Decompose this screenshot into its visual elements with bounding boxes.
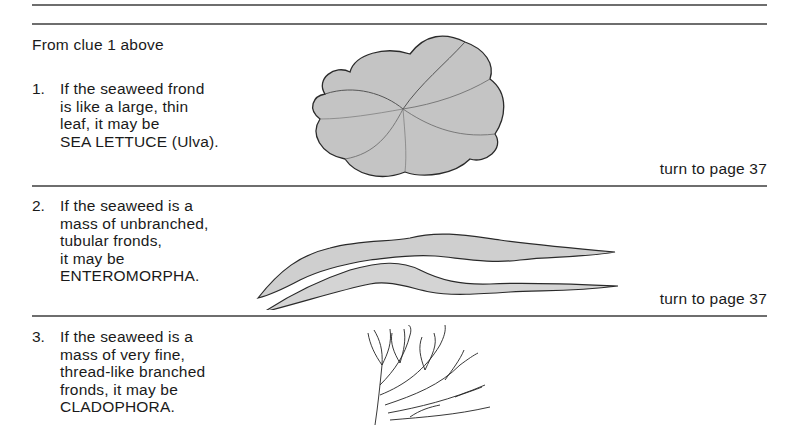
sea-lettuce-illustration xyxy=(295,24,515,184)
species-name: CLADOPHORA. xyxy=(60,398,205,416)
entry-number: 1. xyxy=(32,80,45,98)
species-name: SEA LETTUCE (Ulva). xyxy=(60,133,219,151)
top-rule xyxy=(32,4,767,6)
entry-text: If the seaweed is a mass of very fine, t… xyxy=(60,328,205,416)
enteromorpha-illustration xyxy=(250,200,620,310)
turn-to-page-link[interactable]: turn to page 37 xyxy=(660,160,767,178)
intro-text: From clue 1 above xyxy=(32,36,164,54)
cladophora-illustration xyxy=(360,325,510,425)
entry-number: 3. xyxy=(32,328,45,346)
divider-2 xyxy=(32,315,767,317)
entry-text: If the seaweed is a mass of unbranched, … xyxy=(60,197,209,285)
turn-to-page-link[interactable]: turn to page 37 xyxy=(660,290,767,308)
entry-text: If the seaweed frond is like a large, th… xyxy=(60,80,219,150)
divider-1 xyxy=(32,185,767,187)
entry-number: 2. xyxy=(32,197,45,215)
species-name: ENTEROMORPHA. xyxy=(60,267,209,285)
